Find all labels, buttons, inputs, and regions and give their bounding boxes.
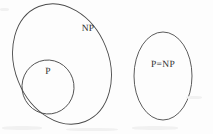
p-equals-np-set-label: P=NP [151, 61, 175, 71]
np-set-ellipse [0, 0, 129, 134]
diagram-canvas [0, 0, 213, 134]
p-vs-np-figure: NP P P=NP [0, 0, 213, 134]
np-set-label: NP [82, 25, 95, 35]
p-set-circle [18, 57, 77, 118]
p-set-label: P [45, 68, 51, 78]
p-equals-np-set-ellipse [134, 32, 192, 120]
